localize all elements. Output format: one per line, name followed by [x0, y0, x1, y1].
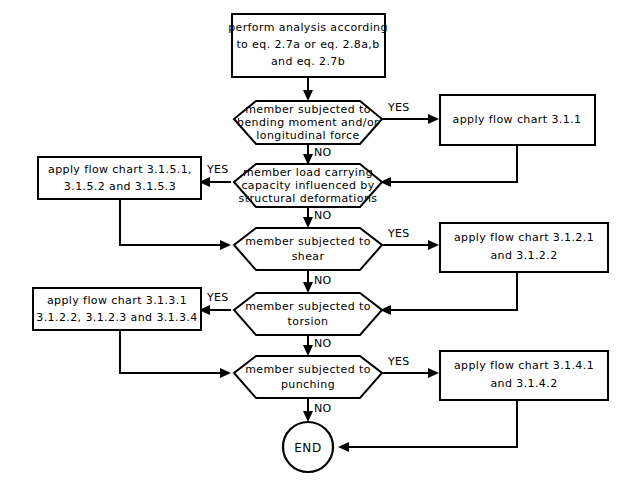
decision-shear-line1: member subjected to [245, 235, 371, 248]
decision-deformations-line2: capacity influenced by [241, 179, 374, 192]
decision-bending-line1: member subjected to [245, 103, 371, 116]
arrowhead-shear-no [303, 282, 313, 293]
decision-bending-line3: longitudinal force [256, 129, 359, 142]
edge-label-bending-no: NO [314, 146, 332, 159]
node-action-shear[interactable]: apply flow chart 3.1.2.1 and 3.1.2.2 [440, 223, 608, 272]
decision-torsion-line1: member subjected to [245, 300, 371, 313]
edge-label-deformations-yes: YES [206, 163, 229, 176]
action-bending-line1: apply flow chart 3.1.1 [453, 113, 582, 126]
node-action-deformations[interactable]: apply flow chart 3.1.5.1, 3.1.5.2 and 3.… [38, 157, 201, 199]
edge-label-shear-no: NO [314, 274, 332, 287]
arrowhead-punching-no [303, 411, 313, 422]
action-shear-line1: apply flow chart 3.1.2.1 [454, 231, 594, 244]
decision-deformations-line1: member load carrying [243, 166, 373, 179]
node-decision-deformations[interactable]: member load carrying capacity influenced… [234, 164, 382, 207]
edge-label-torsion-no: NO [314, 337, 332, 350]
end-terminal-label: END [294, 441, 322, 455]
edge-deformations-action-return [120, 199, 224, 245]
arrowhead-shear-yes [428, 240, 439, 250]
decision-shear-line2: shear [292, 250, 325, 263]
node-decision-punching[interactable]: member subjected to punching [234, 356, 382, 398]
action-deformations-line1: apply flow chart 3.1.5.1, [48, 163, 192, 176]
node-action-punching[interactable]: apply flow chart 3.1.4.1 and 3.1.4.2 [440, 351, 608, 400]
decision-deformations-line3: structural deformations [239, 192, 378, 205]
decision-torsion-line2: torsion [288, 315, 329, 328]
arrowhead-punching-yes [428, 368, 439, 378]
arrowhead-torsion-action-return [220, 368, 231, 378]
edge-bending-action-return [387, 145, 517, 182]
node-decision-bending[interactable]: member subjected to bending moment and/o… [234, 101, 382, 144]
decision-bending-line2: bending moment and/or [237, 116, 379, 129]
flowchart-canvas: YES NO YES NO YES NO YES NO YES NO perfo… [0, 0, 633, 499]
edge-label-deformations-no: NO [314, 209, 332, 222]
arrowhead-torsion-no [303, 345, 313, 356]
node-action-bending[interactable]: apply flow chart 3.1.1 [440, 95, 595, 145]
arrowhead-start-to-bending [303, 90, 313, 101]
node-start-process[interactable]: perform analysis according to eq. 2.7a o… [228, 14, 388, 77]
node-end-terminal[interactable]: END [283, 422, 333, 472]
action-torsion-line2: 3.1.2.2, 3.1.2.3 and 3.1.3.4 [36, 311, 197, 324]
flowchart-diagram: YES NO YES NO YES NO YES NO YES NO perfo… [0, 0, 633, 499]
start-process-line3: and eq. 2.7b [271, 55, 345, 68]
arrowhead-punching-action-to-end [338, 442, 349, 452]
edge-torsion-action-return [120, 330, 224, 373]
action-punching-line1: apply flow chart 3.1.4.1 [454, 359, 594, 372]
action-punching-line2: and 3.1.4.2 [490, 377, 557, 390]
node-action-torsion[interactable]: apply flow chart 3.1.3.1 3.1.2.2, 3.1.2.… [33, 288, 201, 330]
edge-label-bending-yes: YES [387, 101, 410, 114]
start-process-line1: perform analysis according [228, 21, 388, 34]
arrowhead-deformations-no [303, 217, 313, 228]
action-deformations-line2: 3.1.5.2 and 3.1.5.3 [64, 180, 176, 193]
edge-label-torsion-yes: YES [206, 291, 229, 304]
edge-label-punching-yes: YES [387, 355, 410, 368]
arrowhead-deformations-action-return [220, 240, 231, 250]
edge-label-shear-yes: YES [387, 227, 410, 240]
node-decision-shear[interactable]: member subjected to shear [234, 228, 382, 270]
action-shear-line2: and 3.1.2.2 [490, 249, 557, 262]
decision-punching-line2: punching [281, 378, 335, 391]
start-process-line2: to eq. 2.7a or eq. 2.8a,b [236, 38, 379, 51]
node-decision-torsion[interactable]: member subjected to torsion [234, 293, 382, 335]
edge-shear-action-return [387, 272, 517, 310]
edge-label-punching-no: NO [314, 402, 332, 415]
arrowhead-bending-yes [428, 114, 439, 124]
action-torsion-line1: apply flow chart 3.1.3.1 [47, 294, 187, 307]
edge-punching-action-to-end [345, 400, 517, 447]
decision-punching-line1: member subjected to [245, 363, 371, 376]
